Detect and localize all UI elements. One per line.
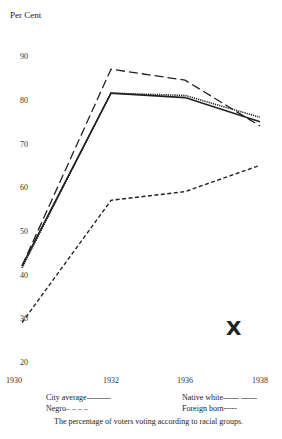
y-tick-label: 50 [20, 227, 28, 236]
line-chart: 20304050607080901930193219361938 [0, 0, 282, 439]
x-annotation: X [226, 316, 241, 340]
legend-city-average: City average——— [46, 393, 111, 402]
y-tick-label: 80 [20, 96, 28, 105]
y-tick-label: 20 [20, 358, 28, 367]
series-line-native-white [22, 69, 260, 266]
x-tick-label: 1938 [252, 376, 268, 385]
x-tick-label: 1932 [103, 376, 119, 385]
series-line-negro [22, 165, 260, 322]
y-tick-label: 60 [20, 183, 28, 192]
chart-caption: The percentage of voters voting accordin… [54, 417, 243, 426]
legend-negro: Negro– – – – [46, 404, 88, 413]
series-line-foreign-born [22, 93, 260, 268]
x-tick-label: 1936 [177, 376, 193, 385]
y-tick-label: 90 [20, 52, 28, 61]
legend-foreign-born: Foreign born----- [182, 404, 237, 413]
y-tick-label: 40 [20, 271, 28, 280]
legend-native-white: Native white—— —— [182, 393, 257, 402]
series-line-city-average [22, 93, 260, 266]
x-tick-label: 1930 [6, 376, 22, 385]
y-axis-label: Per Cent [10, 10, 41, 20]
y-tick-label: 70 [20, 140, 28, 149]
